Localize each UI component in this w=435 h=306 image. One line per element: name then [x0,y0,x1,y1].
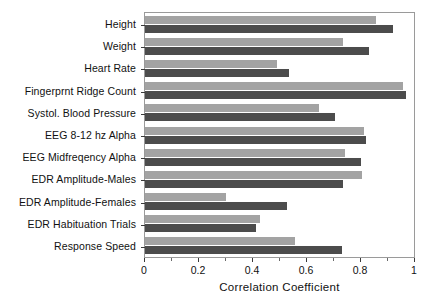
bar-light [145,60,277,68]
category-label: EDR Amplitude-Males [0,168,140,190]
bar-row [145,124,415,146]
category-label: Fingerprnt Ridge Count [0,80,140,102]
bar-row [145,80,415,102]
bar-row [145,102,415,124]
bar-dark [145,91,406,99]
bar-dark [145,113,335,121]
bar-row [145,191,415,213]
correlation-coefficient-bar-chart: HeightWeightHeart RateFingerprnt Ridge C… [0,0,435,306]
category-axis-labels: HeightWeightHeart RateFingerprnt Ridge C… [0,13,140,257]
x-axis-title: Correlation Coefficient [144,281,415,293]
category-label: Systol. Blood Pressure [0,102,140,124]
x-axis-tick [360,258,361,262]
x-axis-tick [414,258,415,262]
bar-light [145,149,345,157]
bar-row [145,57,415,79]
bar-light [145,215,260,223]
x-axis-tick-label: 0.2 [191,264,206,276]
x-axis-minor-tick [171,258,172,261]
bar-light [145,82,403,90]
bar-light [145,104,319,112]
bar-light [145,193,226,201]
x-axis-minor-tick [387,258,388,261]
bar-light [145,237,295,245]
x-axis-tick [198,258,199,262]
x-axis-minor-tick [333,258,334,261]
x-axis-tick-label: 0.8 [353,264,368,276]
bar-dark [145,136,366,144]
x-axis-tick-label: 0 [141,264,147,276]
bar-dark [145,25,393,33]
bar-dark [145,202,287,210]
bar-row [145,13,415,35]
x-axis-tick-label: 1 [411,264,417,276]
bar-dark [145,47,369,55]
category-label: EDR Amplitude-Females [0,191,140,213]
bar-dark [145,180,343,188]
bar-light [145,127,364,135]
bar-dark [145,246,342,254]
bar-row [145,146,415,168]
bar-dark [145,158,361,166]
x-axis-tick [252,258,253,262]
bar-rows [145,13,415,257]
x-axis-minor-tick [279,258,280,261]
category-label: EEG Midfreqency Alpha [0,146,140,168]
bar-light [145,171,362,179]
bar-dark [145,69,289,77]
category-label: EDR Habituation Trials [0,213,140,235]
bar-light [145,38,343,46]
category-label: Weight [0,35,140,57]
category-label: Response Speed [0,235,140,257]
bar-dark [145,224,256,232]
bar-row [145,35,415,57]
x-axis: 00.20.40.60.81 [144,258,415,259]
category-label: EEG 8-12 hz Alpha [0,124,140,146]
category-label: Heart Rate [0,57,140,79]
bar-row [145,235,415,257]
x-axis-tick [306,258,307,262]
x-axis-tick [144,258,145,262]
bar-row [145,213,415,235]
x-axis-tick-label: 0.6 [299,264,314,276]
bar-row [145,168,415,190]
x-axis-tick-label: 0.4 [245,264,260,276]
category-label: Height [0,13,140,35]
bar-light [145,16,376,24]
x-axis-minor-tick [225,258,226,261]
